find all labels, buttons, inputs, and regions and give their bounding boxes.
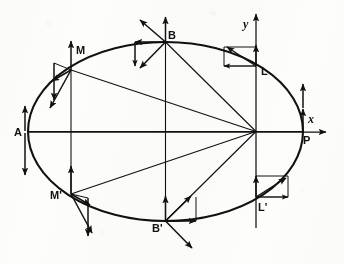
point-label-B: B [168, 29, 176, 41]
point-label-Lprime: L' [258, 201, 268, 213]
ellipse-velocity-diagram: x y [0, 0, 344, 264]
x-axis-label: x [307, 112, 314, 126]
point-label-L: L [261, 65, 268, 77]
point-label-Mprime: M' [50, 189, 62, 201]
point-label-Bprime: B' [152, 222, 163, 234]
point-label-M: M [76, 44, 85, 56]
point-label-P: P [303, 134, 310, 146]
y-axis-label: y [241, 17, 249, 31]
point-label-A: A [14, 126, 22, 138]
diagram-canvas: x y [0, 0, 344, 264]
